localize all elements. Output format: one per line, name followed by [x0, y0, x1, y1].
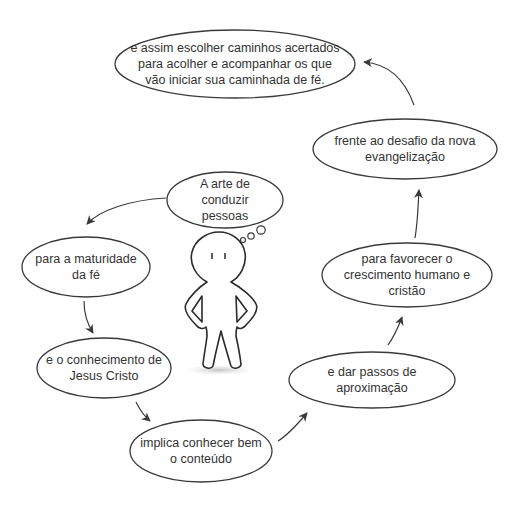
arrow-n5-n6 — [415, 190, 419, 238]
node-n5: para favorecer o crescimento humano e cr… — [322, 243, 492, 307]
stick-figure-icon — [185, 232, 257, 375]
arrow-n0-n1 — [87, 198, 166, 224]
arrow-n3-n4 — [278, 413, 307, 441]
node-n3-label: implica conhecer bem o conteúdo — [140, 435, 262, 467]
node-n4-label: e dar passos de aproximação — [328, 364, 417, 396]
arrow-n1-n2 — [84, 301, 93, 333]
node-n4: e dar passos de aproximação — [289, 352, 455, 408]
node-n6: frente ao desafio da nova evangelização — [313, 119, 497, 179]
arrow-n4-n5 — [388, 317, 402, 345]
node-n2-label: e o conhecimento de Jesus Cristo — [46, 352, 162, 384]
diagram-canvas: e assim escolher caminhos acertados para… — [0, 0, 523, 513]
node-n1: para a maturidade da fé — [22, 237, 150, 297]
node-n2: e o conhecimento de Jesus Cristo — [37, 338, 171, 398]
node-n7-label: e assim escolher caminhos acertados para… — [130, 40, 339, 88]
arrow-n6-n7 — [364, 62, 414, 105]
arrow-n2-n3 — [136, 402, 150, 421]
thought-dots-icon — [241, 226, 266, 243]
node-n0-label: A arte de conduzir pessoas — [175, 176, 275, 224]
node-n7: e assim escolher caminhos acertados para… — [115, 30, 355, 98]
node-n6-label: frente ao desafio da nova evangelização — [334, 133, 475, 165]
node-n1-label: para a maturidade da fé — [35, 251, 136, 283]
node-n3: implica conhecer bem o conteúdo — [130, 420, 272, 482]
node-n0: A arte de conduzir pessoas — [167, 172, 283, 228]
node-n5-label: para favorecer o crescimento humano e cr… — [344, 251, 470, 299]
